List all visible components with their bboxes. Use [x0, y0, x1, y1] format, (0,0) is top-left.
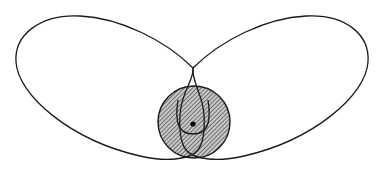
orbit-diagram	[0, 0, 384, 170]
center-point	[190, 121, 195, 126]
